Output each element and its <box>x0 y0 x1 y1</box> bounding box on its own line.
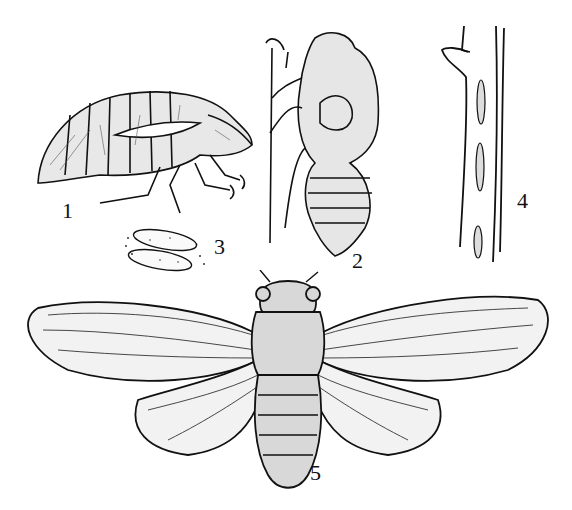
figure-3-label: 3 <box>214 236 225 258</box>
figure-2-climbing-nymph <box>260 28 390 258</box>
figure-3-eggs <box>120 226 210 276</box>
climbing-nymph-drawing <box>260 28 390 258</box>
figure-5-label: 5 <box>310 462 321 484</box>
nymph-drawing <box>30 75 260 215</box>
figure-4-twig <box>438 22 508 270</box>
adult-cicada-drawing <box>18 270 558 500</box>
twig-drawing <box>438 22 508 270</box>
figure-1-nymph <box>30 75 260 215</box>
figure-2-label: 2 <box>352 250 363 272</box>
eggs-drawing <box>120 226 210 276</box>
figure-1-label: 1 <box>62 200 73 222</box>
figure-4-label: 4 <box>517 190 528 212</box>
figure-5-adult-cicada <box>18 270 558 500</box>
